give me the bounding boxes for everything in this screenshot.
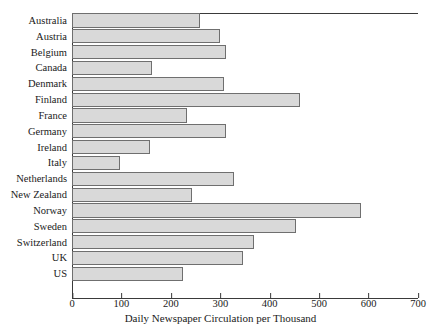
x-tick-label: 400	[262, 298, 278, 309]
bar-rows: AustraliaAustriaBelgiumCanadaDenmarkFinl…	[72, 13, 418, 298]
bar	[72, 219, 296, 233]
bar-row: Netherlands	[72, 171, 418, 187]
category-label: Ireland	[37, 140, 67, 156]
bar	[72, 172, 234, 186]
category-label: Australia	[29, 13, 68, 29]
x-tick-mark	[369, 293, 370, 298]
bar-row: New Zealand	[72, 187, 418, 203]
x-tick-label: 700	[410, 298, 426, 309]
bar	[72, 251, 243, 265]
bar	[72, 156, 120, 170]
bar	[72, 93, 300, 107]
x-tick-label: 100	[114, 298, 130, 309]
bar	[72, 124, 226, 138]
bar-row: Germany	[72, 124, 418, 140]
bar-row: Denmark	[72, 76, 418, 92]
category-label: Denmark	[28, 76, 67, 92]
bar-row: Switzerland	[72, 235, 418, 251]
bar-row: UK	[72, 250, 418, 266]
bar-row: Sweden	[72, 219, 418, 235]
category-label: Belgium	[31, 45, 67, 61]
category-label: Switzerland	[17, 235, 67, 251]
bar	[72, 188, 192, 202]
x-tick-label: 500	[311, 298, 327, 309]
bar-row: Australia	[72, 13, 418, 29]
x-tick-mark	[270, 293, 271, 298]
category-label: UK	[52, 250, 67, 266]
bar-row: Ireland	[72, 140, 418, 156]
x-axis-label: Daily Newspaper Circulation per Thousand	[0, 312, 441, 324]
category-label: Finland	[35, 92, 67, 108]
x-tick-label: 300	[212, 298, 228, 309]
x-tick-mark	[72, 293, 73, 298]
bar	[72, 77, 224, 91]
bar	[72, 108, 187, 122]
x-tick-label: 200	[163, 298, 179, 309]
bar-row: US	[72, 266, 418, 282]
bar-row: Austria	[72, 29, 418, 45]
bar-row: Italy	[72, 155, 418, 171]
x-tick-label: 0	[69, 298, 74, 309]
bar	[72, 235, 254, 249]
bar-row: Finland	[72, 92, 418, 108]
category-label: Austria	[36, 29, 67, 45]
bar-row: Norway	[72, 203, 418, 219]
bar	[72, 61, 152, 75]
category-label: France	[38, 108, 67, 124]
bar	[72, 203, 361, 217]
x-tick-label: 600	[361, 298, 377, 309]
category-label: Norway	[33, 203, 67, 219]
x-tick-mark	[220, 293, 221, 298]
category-label: Netherlands	[16, 171, 67, 187]
x-tick-mark	[418, 293, 419, 298]
bar	[72, 13, 200, 27]
plot-area: AustraliaAustriaBelgiumCanadaDenmarkFinl…	[72, 13, 418, 298]
bar	[72, 140, 150, 154]
category-label: New Zealand	[11, 187, 67, 203]
bar	[72, 267, 183, 281]
bar-row: France	[72, 108, 418, 124]
bar	[72, 45, 226, 59]
bar-row: Canada	[72, 60, 418, 76]
category-label: Germany	[28, 124, 67, 140]
bar-chart: AustraliaAustriaBelgiumCanadaDenmarkFinl…	[0, 0, 441, 331]
category-label: Sweden	[34, 219, 67, 235]
x-tick-mark	[121, 293, 122, 298]
category-label: Italy	[48, 155, 67, 171]
category-label: US	[54, 266, 67, 282]
x-tick-mark	[171, 293, 172, 298]
category-label: Canada	[36, 60, 68, 76]
bar	[72, 29, 220, 43]
x-tick-mark	[319, 293, 320, 298]
bar-row: Belgium	[72, 45, 418, 61]
